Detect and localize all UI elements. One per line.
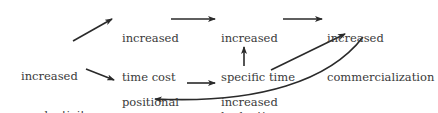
node-line: increased	[221, 32, 295, 45]
node-line: increased	[21, 70, 92, 83]
node-increased-needs: increased needs	[221, 70, 278, 113]
node-line: increased	[221, 96, 278, 109]
node-line: commercialization	[327, 71, 434, 84]
diagram-canvas: increased productivity increased time co…	[0, 0, 438, 113]
node-line: positional	[122, 96, 191, 109]
node-line: productivity	[21, 109, 92, 113]
node-line: increased	[122, 32, 179, 45]
node-increased-productivity: increased productivity	[21, 44, 92, 113]
node-positional-competition: positional competition	[122, 70, 191, 113]
node-increased-commercialization: increased commercialization	[327, 6, 434, 110]
arrow-productivity-to-time-cost	[73, 19, 112, 41]
node-line: increased	[327, 32, 434, 45]
